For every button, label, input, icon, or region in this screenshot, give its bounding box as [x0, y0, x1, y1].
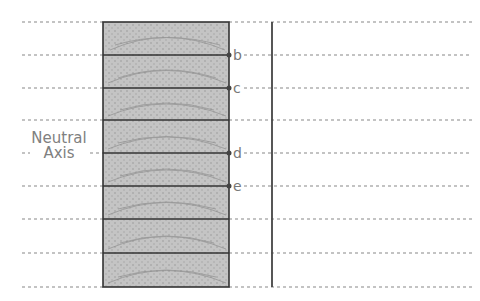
- point-label-e: e: [233, 179, 242, 193]
- point-label-d: d: [233, 146, 242, 160]
- neutral-axis-label-line2: Axis: [19, 146, 99, 161]
- point-label-c: c: [233, 81, 241, 95]
- beam: [103, 22, 229, 287]
- point-label-b: b: [233, 48, 242, 62]
